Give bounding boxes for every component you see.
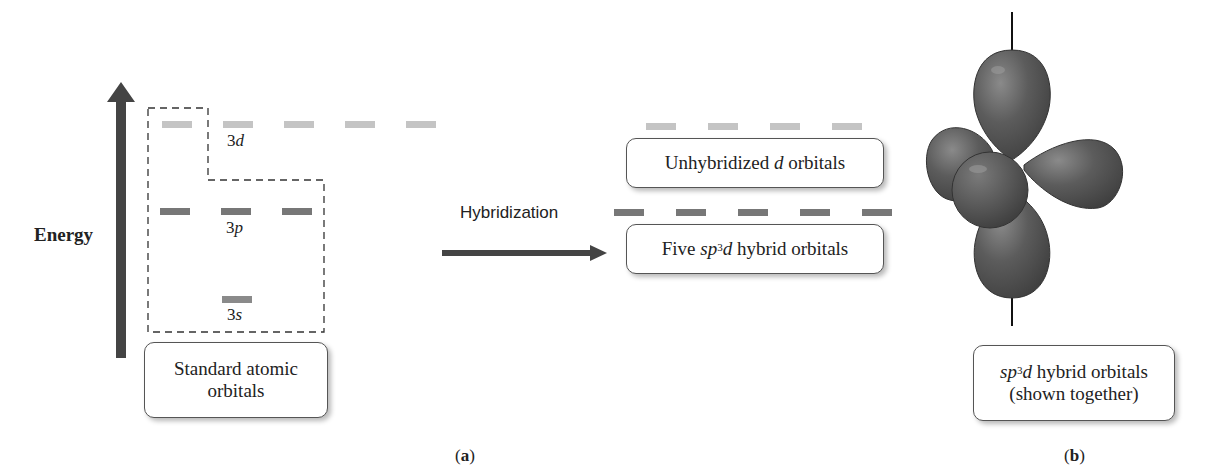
hybrid-orbital-4 [800, 209, 830, 216]
hybridization-label: Hybridization [460, 203, 558, 223]
orbital-3s [222, 296, 252, 303]
orbital-3d-5 [406, 121, 436, 128]
orbital-3p-1 [160, 208, 190, 215]
label-3p: 3p [226, 218, 243, 238]
hybrid-orbitals-box: Five sp3d hybrid orbitals [626, 224, 884, 274]
hybridization-arrow-icon [442, 244, 608, 262]
unhybridized-orbital-2 [708, 123, 738, 130]
orbital-3p-2 [221, 208, 251, 215]
orbital-3d-1 [162, 121, 192, 128]
orbital-3d-2 [223, 121, 253, 128]
label-3s: 3s [227, 305, 242, 325]
sp3d-orbital-model-icon [920, 0, 1130, 330]
sp3d-caption-line1: sp3d hybrid orbitals [974, 361, 1174, 383]
orbital-3d-3 [284, 121, 314, 128]
standard-orbitals-line2: orbitals [145, 380, 327, 402]
label-3d: 3d [227, 131, 244, 151]
sp3d-caption-line2: (shown together) [974, 383, 1174, 405]
standard-orbitals-line1: Standard atomic [145, 358, 327, 380]
hybrid-orbital-5 [862, 209, 892, 216]
unhybridized-orbital-1 [646, 123, 676, 130]
hybrid-orbital-2 [676, 209, 706, 216]
panel-a-label: (a) [455, 446, 475, 466]
hybrid-orbital-1 [614, 209, 644, 216]
panel-b-label: (b) [1064, 446, 1085, 466]
unhybridized-box: Unhybridized d orbitals [626, 138, 884, 188]
orbital-3p-3 [282, 208, 312, 215]
orbital-3d-4 [345, 121, 375, 128]
energy-arrow-icon [106, 80, 136, 360]
standard-orbitals-box: Standard atomic orbitals [144, 342, 328, 418]
unhybridized-orbital-4 [832, 123, 862, 130]
unhybridized-orbital-3 [770, 123, 800, 130]
sp3d-caption-box: sp3d hybrid orbitals (shown together) [973, 345, 1175, 421]
hybrid-orbital-3 [738, 209, 768, 216]
energy-axis-label: Energy [34, 224, 93, 246]
